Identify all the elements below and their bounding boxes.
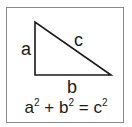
eq-plus: +: [44, 98, 54, 117]
side-a-label: a: [21, 40, 31, 58]
eq-exp-c: 2: [102, 97, 108, 108]
eq-exp-b: 2: [68, 97, 74, 108]
side-b-label: b: [67, 78, 77, 96]
eq-equals: =: [79, 98, 89, 117]
eq-term-a: a: [25, 98, 34, 117]
triangle-shape: [35, 22, 111, 75]
eq-term-c: c: [93, 98, 102, 117]
pythagorean-equation: a2 + b2 = c2: [0, 99, 132, 116]
side-c-label: c: [74, 31, 83, 49]
eq-exp-a: 2: [34, 97, 40, 108]
